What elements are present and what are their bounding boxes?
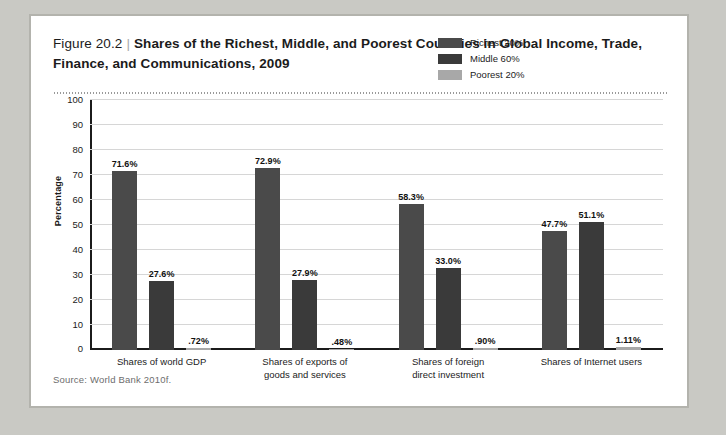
x-axis-group-label: Shares of exports of goods and services [233,356,376,381]
y-axis-tick-label: 70 [72,169,83,180]
y-axis-tick-label: 80 [72,144,83,155]
bar-value-label: .90% [475,336,496,346]
legend-label: Poorest 20% [470,69,524,80]
figure-card: Figure 20.2|Shares of the Richest, Middl… [29,14,689,408]
bar[interactable]: .48% [329,349,354,351]
x-axis-group-label: Shares of Internet users [520,356,663,369]
bar-group: 71.6%27.6%.72%Shares of world GDP [90,100,233,350]
y-axis-tick-label: 10 [72,319,83,330]
y-axis-tick-label: 60 [72,194,83,205]
y-axis-title: Percentage [53,146,63,256]
legend-item[interactable]: Middle 60% [438,52,598,65]
bar-value-label: 1.11% [616,335,641,345]
y-axis-tick-label: 30 [72,269,83,280]
y-axis-tick-label: 100 [67,94,83,105]
y-axis-tick-label: 50 [72,219,83,230]
bar-value-label: 47.7% [542,219,568,229]
bar[interactable]: .72% [186,348,211,350]
bar-value-label: 71.6% [112,159,138,169]
legend-swatch [438,54,462,64]
x-axis-group-label: Shares of world GDP [90,356,233,369]
bar-value-label: .72% [188,336,209,346]
bar-value-label: 27.6% [149,269,175,279]
bar[interactable]: 47.7% [542,231,567,350]
bar-value-label: 51.1% [579,210,605,220]
bar-value-label: 72.9% [255,156,281,166]
y-axis-tick-label: 0 [78,343,83,354]
bar[interactable]: 72.9% [255,168,280,350]
chart-legend: Richest 20%Middle 60%Poorest 20% [438,36,598,84]
legend-label: Middle 60% [470,53,520,64]
bar-value-label: .48% [332,337,353,347]
bar-group: 72.9%27.9%.48%Shares of exports of goods… [233,100,376,350]
bar[interactable]: 1.11% [616,347,641,350]
x-axis-group-label: Shares of foreign direct investment [377,356,520,381]
plot-area: 1009080706050403020100 71.6%27.6%.72%Sha… [90,100,663,350]
legend-swatch [438,70,462,80]
legend-item[interactable]: Richest 20% [438,36,598,49]
y-axis-tick-label: 20 [72,294,83,305]
bar-value-label: 33.0% [435,256,461,266]
bar[interactable]: 27.9% [292,280,317,350]
y-axis-tick-label: 90 [72,119,83,130]
legend-swatch [438,38,462,48]
legend-item[interactable]: Poorest 20% [438,68,598,81]
bar-group: 47.7%51.1%1.11%Shares of Internet users [520,100,663,350]
bar-value-label: 27.9% [292,268,318,278]
bar-value-label: 58.3% [398,192,424,202]
chart: Percentage 1009080706050403020100 71.6%2… [31,16,691,410]
source-note: Source: World Bank 2010f. [53,374,171,385]
legend-label: Richest 20% [470,37,523,48]
bar[interactable]: 58.3% [399,204,424,350]
y-axis-tick-label: 40 [72,244,83,255]
bar[interactable]: .90% [473,348,498,350]
bar[interactable]: 51.1% [579,222,604,350]
bar[interactable]: 33.0% [436,268,461,351]
bar[interactable]: 71.6% [112,171,137,350]
bar-group: 58.3%33.0%.90%Shares of foreign direct i… [377,100,520,350]
bar[interactable]: 27.6% [149,281,174,350]
